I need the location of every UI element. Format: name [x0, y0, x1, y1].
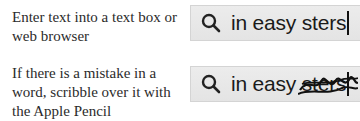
search-input-scribble[interactable]: in easy sters: [190, 66, 360, 102]
search-icon: [201, 74, 221, 94]
text-cursor: [347, 11, 349, 35]
search-query-text: in easy sters: [231, 11, 349, 35]
search-input[interactable]: in easy sters: [190, 5, 360, 41]
scribbled-word: sters: [302, 72, 347, 96]
search-icon: [201, 13, 221, 33]
text-cursor: [347, 72, 349, 96]
search-query-text: in easy sters: [231, 72, 349, 96]
step-2-instruction: If there is a mistake in a word, scribbl…: [12, 64, 182, 121]
step-1-instruction: Enter text into a text box or web browse…: [12, 8, 182, 46]
